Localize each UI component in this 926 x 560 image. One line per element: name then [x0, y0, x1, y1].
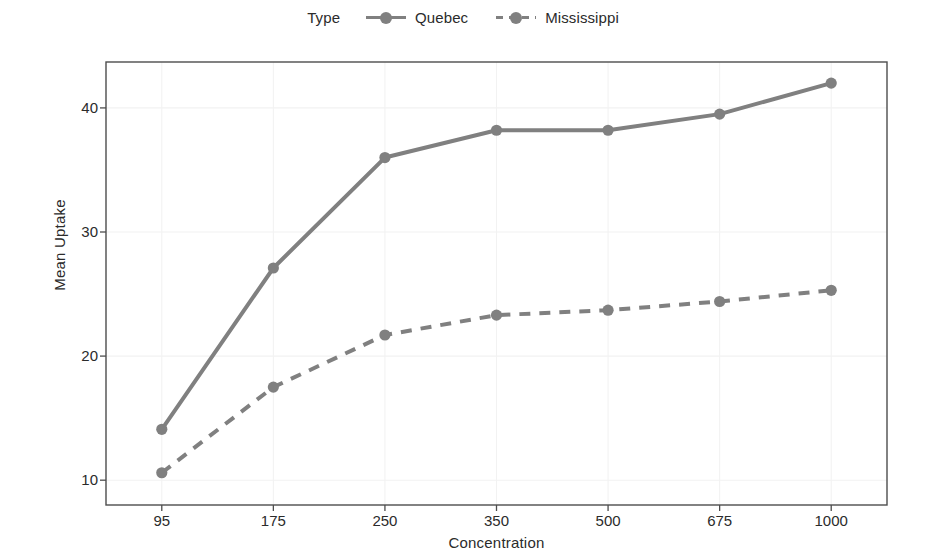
x-tick-label: 350 — [452, 512, 542, 529]
x-tick-label: 95 — [117, 512, 207, 529]
x-tick-label: 675 — [675, 512, 765, 529]
x-tick-label: 250 — [340, 512, 430, 529]
x-tick-label: 1000 — [786, 512, 876, 529]
x-tick-label: 500 — [563, 512, 653, 529]
x-axis-tick-labels: 951752503505006751000 — [0, 0, 926, 560]
x-tick-label: 175 — [228, 512, 318, 529]
chart-container: Type Quebec Mississippi Mean Uptake Conc… — [0, 0, 926, 560]
